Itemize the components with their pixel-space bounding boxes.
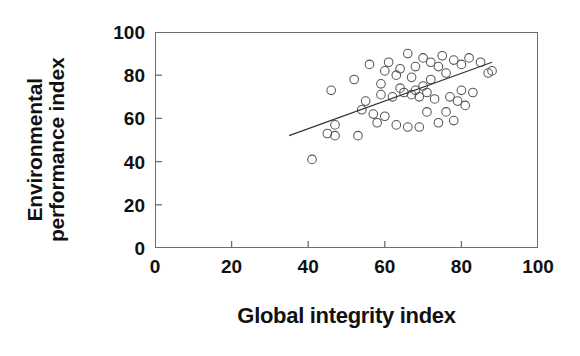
x-tick-label-20: 20 — [202, 257, 262, 276]
y-tick-label-80: 80 — [99, 66, 145, 85]
y-tick-label-100: 100 — [99, 23, 145, 42]
x-tick-label-100: 100 — [508, 257, 568, 276]
scatter-plot-figure: Environmental performance index 02040608… — [0, 0, 580, 356]
y-tick-label-60: 60 — [99, 109, 145, 128]
x-axis-title: Global integrity index — [155, 303, 538, 329]
plot-frame — [155, 32, 538, 248]
x-axis-tick-labels: 020406080100 — [0, 257, 580, 287]
x-tick-label-40: 40 — [278, 257, 338, 276]
x-tick-label-60: 60 — [355, 257, 415, 276]
y-axis-title: Environmental performance index — [24, 20, 68, 280]
y-tick-label-0: 0 — [99, 239, 145, 258]
y-axis-tick-labels: 020406080100 — [95, 0, 145, 356]
x-tick-label-0: 0 — [125, 257, 185, 276]
y-axis-title-line-2: performance index — [46, 20, 68, 280]
y-tick-label-40: 40 — [99, 153, 145, 172]
y-axis-title-line-1: Environmental — [24, 20, 46, 280]
x-tick-label-80: 80 — [431, 257, 491, 276]
y-tick-label-20: 20 — [99, 196, 145, 215]
